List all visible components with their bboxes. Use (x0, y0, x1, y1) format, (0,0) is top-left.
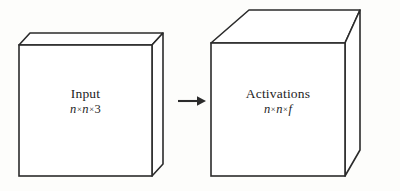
input-block-dims: n×n×3 (19, 102, 152, 116)
input-block-title: Input (19, 86, 152, 101)
input-block-label: Input n×n×3 (19, 86, 152, 116)
diagram-canvas: Input n×n×3 Activations n×n×f (0, 0, 400, 191)
activations-dim-3: f (288, 102, 292, 116)
activations-block-title: Activations (211, 86, 345, 101)
input-block-top-face (19, 33, 163, 45)
activations-block-dims: n×n×f (211, 102, 345, 116)
activations-dim-2: n (276, 102, 282, 116)
flow-arrow-head (197, 96, 206, 106)
activations-block-label: Activations n×n×f (211, 86, 345, 116)
input-block-side-face (152, 33, 163, 176)
input-dim-3: 3 (95, 102, 101, 116)
input-dim-2: n (82, 102, 88, 116)
activations-block-top-face (211, 10, 360, 43)
flow-arrow (178, 96, 206, 106)
